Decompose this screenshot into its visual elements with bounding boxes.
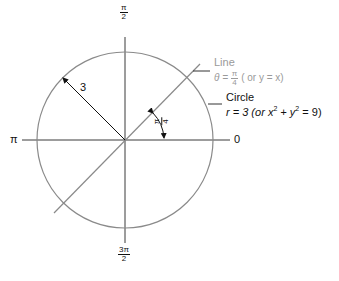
frac-den: 4 — [232, 79, 236, 87]
label-zero: 0 — [234, 134, 240, 145]
polar-diagram — [0, 0, 339, 281]
eq-main: r = 3 ( — [226, 106, 255, 118]
line-title: Line — [214, 57, 235, 68]
circle-equation: r = 3 (or x2 + y2 = 9) — [226, 105, 322, 118]
eq-prefix: θ = — [214, 72, 231, 83]
line-theta-pi-4 — [54, 64, 200, 213]
label-pi-over-2: π2 — [120, 4, 128, 21]
eq-plus: + y — [277, 106, 295, 118]
eq-end: = 9) — [299, 106, 321, 118]
frac-den: 2 — [122, 13, 126, 21]
radius-arrow — [63, 78, 125, 140]
eq-suffix: ( or y = x) — [238, 72, 283, 83]
radius-label: 3 — [80, 82, 86, 93]
label-pi: π — [10, 134, 18, 145]
angle-label: π4 — [153, 118, 170, 126]
frac-den: 4 — [162, 119, 170, 123]
line-equation: θ = π4 ( or y = x) — [214, 70, 284, 87]
frac-den: 2 — [122, 255, 126, 263]
circle-title: Circle — [226, 92, 254, 103]
label-3pi-over-2: 3π2 — [118, 246, 130, 263]
eq-or: or — [255, 106, 265, 118]
